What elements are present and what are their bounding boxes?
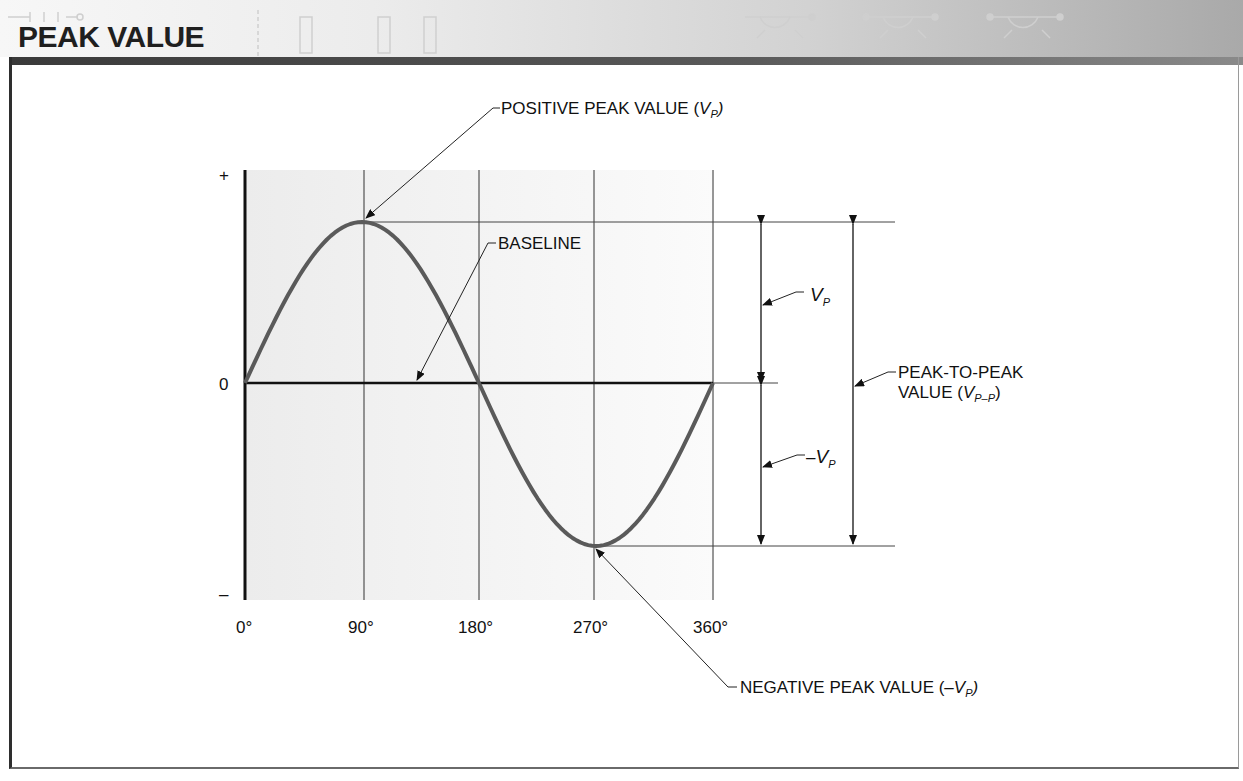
peak-to-peak-label-line2: VALUE (VP–P) <box>898 383 1001 404</box>
negative-peak-label: NEGATIVE PEAK VALUE (–VP) <box>740 678 978 699</box>
baseline-label: BASELINE <box>498 234 581 253</box>
neg-vp-label: –VP <box>806 446 836 470</box>
x-tick-360: 360° <box>693 618 728 637</box>
y-zero-label: 0 <box>219 375 228 394</box>
x-tick-0: 0° <box>236 618 252 637</box>
x-tick-90: 90° <box>348 618 374 637</box>
neg-vp-leader <box>763 455 805 467</box>
vp-label: VP <box>810 284 831 308</box>
x-tick-180: 180° <box>458 618 493 637</box>
vp-leader <box>763 292 804 305</box>
peak-to-peak-leader <box>855 372 896 386</box>
x-tick-270: 270° <box>573 618 608 637</box>
positive-peak-label: POSITIVE PEAK VALUE (VP) <box>501 99 723 120</box>
sine-wave-diagram: + 0 – 0° 90° 180° 270° 360° POSITIVE PEA… <box>0 0 1243 781</box>
peak-to-peak-label-line1: PEAK-TO-PEAK <box>898 363 1024 382</box>
y-minus-label: – <box>219 585 229 604</box>
y-plus-label: + <box>219 166 229 185</box>
